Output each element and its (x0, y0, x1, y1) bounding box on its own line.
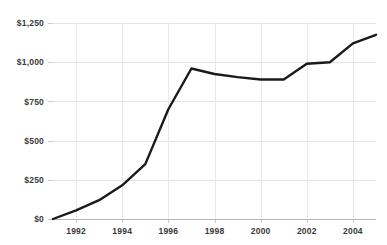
y-tick-label-750: $750 (24, 97, 44, 107)
chart-canvas: $0$250$500$750$1,000$1,250 1992199419961… (0, 0, 387, 245)
chart-background (0, 0, 387, 245)
x-tick-label-1994: 1994 (112, 226, 132, 236)
x-tick-label-2004: 2004 (343, 226, 363, 236)
y-tick-label-1250: $1,250 (17, 18, 44, 28)
y-tick-label-1000: $1,000 (17, 57, 44, 67)
x-tick-label-1996: 1996 (158, 226, 178, 236)
x-tick-label-1992: 1992 (66, 226, 86, 236)
y-tick-label-500: $500 (24, 136, 44, 146)
y-tick-label-250: $250 (24, 175, 44, 185)
y-tick-label-0: $0 (34, 214, 44, 224)
line-chart: $0$250$500$750$1,000$1,250 1992199419961… (0, 0, 387, 245)
x-tick-label-1998: 1998 (205, 226, 225, 236)
x-tick-label-2000: 2000 (251, 226, 271, 236)
x-tick-label-2002: 2002 (297, 226, 317, 236)
